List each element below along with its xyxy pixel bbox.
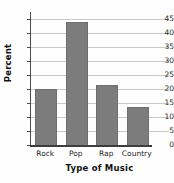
y-axis-tick-mark (27, 145, 30, 146)
y-axis-tick-label: 45 (148, 15, 174, 23)
y-axis-tick-label: 40 (148, 29, 174, 37)
y-axis-tick-mark (27, 131, 30, 132)
y-axis-tick-label: 10 (148, 113, 174, 121)
y-axis-tick-mark (27, 33, 30, 34)
y-axis-tick-label: 0 (148, 141, 174, 149)
y-axis-tick-mark (27, 19, 30, 20)
x-axis-label-country: Country (113, 149, 161, 158)
x-axis-title: Type of Music (30, 163, 169, 173)
y-axis-tick-mark (27, 89, 30, 90)
bar-chart-screenshot: 051015202530354045 RockPopRapCountry Typ… (0, 0, 174, 183)
y-axis-line (30, 12, 31, 146)
y-axis-tick-label: 30 (148, 57, 174, 65)
y-axis-tick-mark (27, 75, 30, 76)
y-axis-tick-label: 5 (148, 127, 174, 135)
y-axis-tick-mark (27, 103, 30, 104)
y-axis-tick-label: 15 (148, 99, 174, 107)
y-axis-tick-label: 20 (148, 85, 174, 93)
bar-rap (96, 85, 118, 146)
bar-rock (35, 89, 57, 146)
y-axis-tick-label: 25 (148, 71, 174, 79)
bar-pop (66, 22, 88, 146)
x-axis-line (30, 145, 152, 147)
y-axis-tick-mark (27, 61, 30, 62)
y-axis-title: Percent (3, 33, 13, 93)
y-axis-tick-mark (27, 47, 30, 48)
chart-figure: 051015202530354045 RockPopRapCountry Typ… (0, 0, 174, 183)
y-axis-tick-label: 35 (148, 43, 174, 51)
bar-country (127, 107, 149, 146)
y-axis-tick-mark (27, 117, 30, 118)
